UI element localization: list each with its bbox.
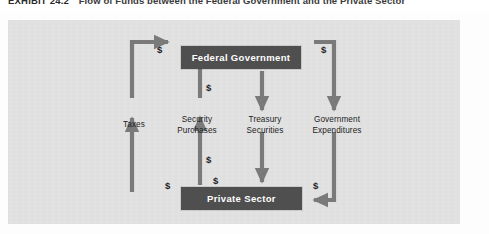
flow-label-government-expenditures: Government Expenditures xyxy=(300,115,374,136)
node-private-sector-label: Private Sector xyxy=(207,193,276,204)
exhibit-caption-text: Flow of Funds between the Federal Govern… xyxy=(79,0,406,6)
exhibit-caption-label: EXHIBIT 24.2 xyxy=(8,0,69,6)
money-marker-bottom-right: $ xyxy=(313,180,318,191)
money-marker-security-lower: $ xyxy=(206,154,211,165)
money-marker-top-right: $ xyxy=(321,44,326,55)
flow-label-treasury-securities: Treasury Securities xyxy=(236,115,294,136)
flow-label-taxes: Taxes xyxy=(109,120,159,131)
money-marker-treasury-mid: $ xyxy=(213,175,218,186)
node-federal-government-label: Federal Government xyxy=(192,52,291,63)
arrow-taxes-upper-segment xyxy=(132,42,168,98)
flow-diagram-panel: Federal Government Private Sector Taxes … xyxy=(8,20,460,224)
money-marker-top-left: $ xyxy=(157,44,162,55)
money-marker-security-upper: $ xyxy=(206,82,211,93)
node-private-sector: Private Sector xyxy=(181,187,302,210)
node-federal-government: Federal Government xyxy=(181,46,301,69)
exhibit-caption: EXHIBIT 24.2 Flow of Funds between the F… xyxy=(0,0,489,13)
flow-label-security-purchases: Security Purchases xyxy=(168,115,226,136)
money-marker-bottom-left: $ xyxy=(165,180,170,191)
